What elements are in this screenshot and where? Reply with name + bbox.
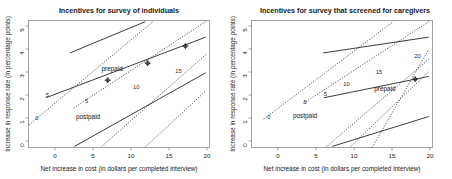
- contour-line-prepaid-0: [323, 37, 429, 53]
- x-tick-label: 10: [351, 152, 358, 159]
- contour-label-0: 0: [267, 114, 270, 120]
- y-tick-label: 2: [18, 97, 25, 101]
- contour-label-5: 5: [46, 92, 49, 98]
- y-tick-label: 1: [18, 120, 25, 124]
- plot-frame: [29, 21, 210, 148]
- contour-line-postpaid-5: [74, 22, 206, 108]
- x-axis: 0 5 10 15 20: [53, 148, 211, 160]
- x-tick-label: 0: [276, 152, 280, 159]
- panel-title: Incentives for survey of individuals: [59, 6, 179, 15]
- figure-root: Incentives for survey of individuals 0 5…: [0, 0, 452, 179]
- annotation-prepaid: prepaid: [374, 85, 396, 93]
- x-tick-label: 10: [128, 152, 135, 159]
- plot-svg-left: Incentives for survey of individuals 0 5…: [0, 0, 226, 179]
- contour-line-prepaid-10: [332, 117, 429, 147]
- x-axis-label: Net increase in cost (in dollars per com…: [41, 165, 198, 173]
- contour-line-prepaid-10: [75, 73, 206, 147]
- contour-label-5: 5: [303, 99, 306, 105]
- y-tick-label: 5: [18, 28, 25, 32]
- plot-lines: [29, 22, 205, 148]
- y-tick-label: 5: [241, 28, 248, 32]
- plot-frame: [252, 21, 433, 148]
- y-tick-label: 0: [18, 143, 25, 147]
- x-tick-label: 0: [53, 152, 57, 159]
- x-tick-label: 20: [204, 152, 211, 159]
- x-axis-label: Net increase in cost (in dollars per com…: [264, 165, 421, 173]
- contour-line-postpaid-15: [350, 72, 429, 148]
- y-axis: 0 1 2 3 4 5: [18, 26, 29, 147]
- chart-panel-individuals: Incentives for survey of individuals 0 5…: [0, 0, 226, 179]
- contour-label-0: 0: [35, 115, 38, 121]
- y-tick-label: 3: [241, 74, 248, 78]
- contour-line-postpaid-5: [304, 22, 429, 104]
- contour-line-postpaid-15: [145, 91, 206, 148]
- contour-label-15: 15: [376, 69, 382, 75]
- y-tick-label: 1: [241, 120, 248, 124]
- annotation-postpaid: postpaid: [76, 113, 101, 121]
- y-tick-label: 4: [18, 51, 25, 55]
- contour-line-postpaid-0: [264, 22, 394, 120]
- x-tick-label: 5: [314, 152, 318, 159]
- y-tick-label: 2: [241, 97, 248, 101]
- contour-labels: 5051015: [35, 68, 182, 121]
- contour-label-20: 20: [414, 53, 420, 59]
- contour-label-5: 5: [324, 91, 327, 97]
- x-tick-label: 15: [389, 152, 396, 159]
- x-tick-label: 15: [166, 152, 173, 159]
- contour-line-prepaid-0: [70, 22, 145, 53]
- y-tick-label: 3: [18, 74, 25, 78]
- x-tick-label: 5: [91, 152, 95, 159]
- series-annotations: prepaidpostpaid: [76, 65, 123, 121]
- annotation-prepaid: prepaid: [102, 65, 124, 73]
- y-axis: 0 1 2 3 4 5: [241, 26, 252, 147]
- plot-svg-right: Incentives for survey that screened for …: [226, 0, 452, 179]
- y-axis-label: Increase in response rate (in percentage…: [4, 16, 12, 152]
- x-tick-label: 20: [427, 152, 434, 159]
- annotation-postpaid: postpaid: [293, 112, 318, 120]
- panel-title: Incentives for survey that screened for …: [260, 6, 430, 15]
- contour-line-postpaid-0: [29, 22, 153, 125]
- chart-panel-caregivers: Incentives for survey that screened for …: [226, 0, 452, 179]
- contour-label-15: 15: [175, 68, 181, 74]
- contour-label-10: 10: [133, 84, 139, 90]
- y-axis-label: Increase in response rate (in percentage…: [229, 16, 237, 152]
- contour-labels: 505101520: [267, 53, 420, 119]
- y-tick-label: 4: [241, 51, 248, 55]
- x-axis: 0 5 10 15 20: [276, 148, 434, 160]
- contour-label-5: 5: [85, 98, 88, 104]
- series-annotations: prepaidpostpaid: [293, 85, 396, 120]
- y-tick-label: 0: [241, 143, 248, 147]
- contour-label-10: 10: [343, 81, 349, 87]
